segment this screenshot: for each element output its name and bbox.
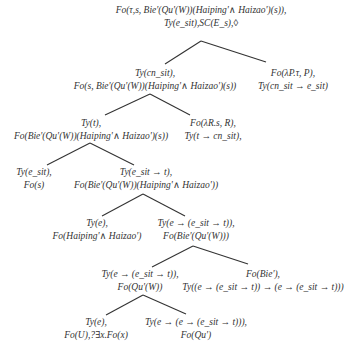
tree-node-n3: Ty(t), Fo(Bie'(Qu'(W))(Haiping'∧ Haizao'…: [14, 117, 168, 143]
node-line: Ty(e_sit → t),: [74, 166, 218, 179]
tree-node-n10: Fo(Bie'), Ty((e → (e_sit → t)) → (e → (e…: [182, 268, 343, 294]
node-line: Fo(Bie'(Qu'(W))(Haiping'∧ Haizao')(s)): [14, 130, 168, 143]
tree-node-n12: Ty(e → (e → (e_sit → t))), Fo(Qu'): [145, 316, 247, 342]
tree-node-n4: Fo(λR.s, R), Ty(t → cn_sit),: [184, 117, 241, 143]
node-line: Ty(e_sit),SC(E_s),◊: [116, 17, 287, 30]
node-line: Fo(Bie'(Qu'(W))): [157, 230, 234, 243]
tree-node-n2: Fo(λP.τ, P), Ty(cn_sit → e_sit): [258, 67, 328, 93]
edge-n3-n5: [47, 143, 90, 165]
edge-n6-n8: [143, 194, 185, 216]
tree-node-n5: Ty(e_sit), Fo(s): [16, 166, 51, 192]
edge-root-n2: [201, 41, 266, 62]
edge-n3-n6: [90, 143, 134, 165]
node-line: Fo(τ,s, Bie'(Qu'(W))(Haiping'∧ Haizao')(…: [116, 4, 287, 17]
node-line: Ty(e → (e_sit → t)),: [157, 217, 234, 230]
tree-node-n11: Ty(e), Fo(U),?∃x.Fo(x): [64, 316, 128, 342]
node-line: Fo(Bie'),: [182, 268, 343, 281]
node-line: Ty(cn_sit → e_sit): [258, 80, 328, 93]
node-line: Fo(Haiping'∧ Haizao'): [53, 230, 142, 243]
node-line: Ty(cn_sit),: [74, 67, 237, 80]
edge-n1-n4: [150, 94, 190, 115]
node-line: Fo(Qu'): [145, 329, 247, 342]
node-line: Fo(λR.s, R),: [184, 117, 241, 130]
node-line: Fo(Qu'(W)): [101, 281, 178, 294]
node-line: Fo(Bie'(Qu'(W))(Haiping'∧ Haizao')): [74, 179, 218, 192]
node-line: Ty(e → (e → (e_sit → t))),: [145, 316, 247, 329]
node-line: Ty((e → (e_sit → t)) → (e → (e_sit → t))…: [182, 281, 343, 294]
node-line: Ty(e_sit),: [16, 166, 51, 179]
node-line: Fo(U),?∃x.Fo(x): [64, 329, 128, 342]
tree-node-n6: Ty(e_sit → t), Fo(Bie'(Qu'(W))(Haiping'∧…: [74, 166, 218, 192]
edge-n9-n11: [106, 295, 143, 315]
node-line: Ty(t → cn_sit),: [184, 130, 241, 143]
edge-n8-n9: [152, 246, 193, 267]
node-line: Ty(t),: [14, 117, 168, 130]
edge-n1-n3: [105, 94, 150, 115]
node-line: Fo(s, Bie'(Qu'(W))(Haiping'∧ Haizao')(s)…: [74, 80, 237, 93]
edge-root-n1: [165, 41, 201, 64]
edge-n6-n7: [102, 194, 143, 216]
edge-n9-n12: [143, 295, 186, 314]
node-line: Fo(λP.τ, P),: [258, 67, 328, 80]
tree-node-root: Fo(τ,s, Bie'(Qu'(W))(Haiping'∧ Haizao')(…: [116, 4, 287, 30]
tree-node-n7: Ty(e), Fo(Haiping'∧ Haizao'): [53, 217, 142, 243]
node-line: Ty(e),: [53, 217, 142, 230]
tree-node-n1: Ty(cn_sit), Fo(s, Bie'(Qu'(W))(Haiping'∧…: [74, 67, 237, 93]
edge-n8-n10: [193, 246, 248, 264]
tree-node-n8: Ty(e → (e_sit → t)), Fo(Bie'(Qu'(W))): [157, 217, 234, 243]
tree-node-n9: Ty(e → (e_sit → t)), Fo(Qu'(W)): [101, 268, 178, 294]
node-line: Ty(e → (e_sit → t)),: [101, 268, 178, 281]
node-line: Ty(e),: [64, 316, 128, 329]
node-line: Fo(s): [16, 179, 51, 192]
